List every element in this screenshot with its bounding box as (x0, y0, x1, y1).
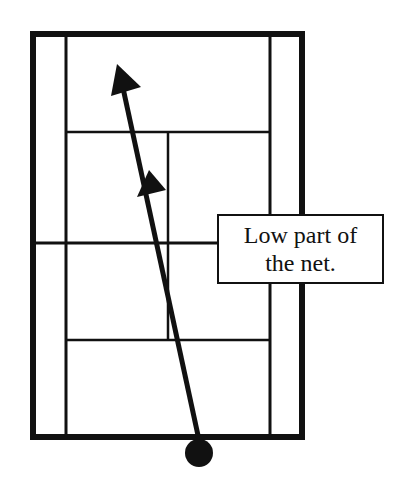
annotation-label: Low part of the net. (217, 214, 384, 284)
annotation-label-line1: Low part of (244, 221, 357, 249)
annotation-label-line2: the net. (265, 249, 336, 277)
ball-icon (185, 439, 213, 467)
shot-path-line (123, 88, 199, 440)
arrowhead-top-icon (111, 64, 141, 96)
